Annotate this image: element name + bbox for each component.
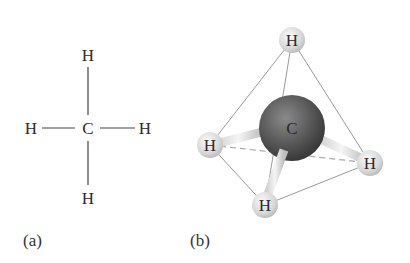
caption-b: (b)	[190, 231, 210, 250]
hydrogen-left: H	[197, 132, 223, 158]
methane-diagram: H C H H H (a) C H H	[0, 0, 410, 263]
caption-a: (a)	[23, 231, 42, 250]
atom-h-label: H	[259, 196, 271, 215]
atom-h-left: H	[25, 119, 37, 138]
bond-b-right	[318, 138, 365, 160]
bond-b-bottom	[266, 150, 284, 200]
atom-h-bottom: H	[82, 189, 94, 208]
atom-c-label: C	[286, 119, 297, 138]
hydrogen-bottom: H	[252, 192, 278, 218]
atom-h-right: H	[139, 119, 151, 138]
panel-b-tetrahedral-model: C H H H H (b)	[190, 27, 383, 250]
atom-h-label: H	[286, 31, 298, 50]
hydrogen-right: H	[357, 150, 383, 176]
panel-a-structural-formula: H C H H H (a)	[23, 46, 151, 250]
hydrogen-top: H	[279, 27, 305, 53]
atom-h-label: H	[204, 136, 216, 155]
atom-h-label: H	[364, 154, 376, 173]
atom-c: C	[82, 119, 93, 138]
atom-h-top: H	[82, 46, 94, 65]
